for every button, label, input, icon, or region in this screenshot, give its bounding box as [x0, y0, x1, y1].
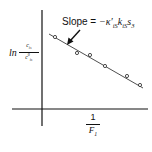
slope-kappa: −κ′ — [99, 16, 113, 27]
x-den-sub: 1 — [94, 131, 97, 137]
slope-arrow-icon — [67, 30, 80, 45]
x-denominator: F1 — [89, 126, 97, 138]
slope-sub-3: 3 — [131, 22, 134, 29]
y-num-sub: is — [29, 46, 32, 50]
fit-line — [49, 34, 143, 88]
y-fraction: cis c0is — [19, 42, 39, 63]
y-den-sup: 0 — [28, 53, 30, 57]
slope-annotation: Slope = −κ′iSkiSs3 — [62, 17, 134, 30]
ln-text: ln — [9, 48, 17, 58]
data-point — [88, 53, 91, 56]
data-point — [138, 83, 141, 86]
y-numerator: cis — [25, 42, 32, 52]
data-points — [53, 35, 141, 86]
x-axis-label: 1 F1 — [86, 113, 100, 138]
data-point — [125, 74, 128, 77]
data-point — [53, 35, 56, 38]
data-point — [75, 51, 78, 54]
data-point — [103, 64, 106, 67]
y-den-sub: is — [30, 58, 33, 62]
y-axis-label: ln cis c0is — [9, 42, 39, 63]
y-denominator: c0is — [25, 53, 32, 63]
x-numerator: 1 — [90, 113, 95, 122]
slope-text: Slope = — [62, 16, 99, 27]
